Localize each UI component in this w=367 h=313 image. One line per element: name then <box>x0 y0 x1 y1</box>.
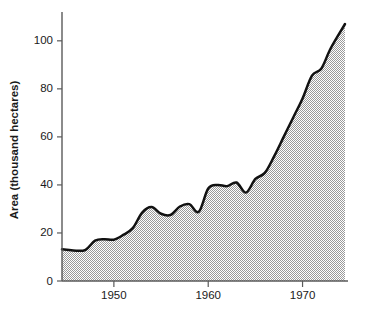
y-tick-label: 40 <box>40 178 53 190</box>
x-tick-label: 1950 <box>101 289 127 301</box>
x-tick-label: 1970 <box>290 289 316 301</box>
y-tick-label: 60 <box>40 130 53 142</box>
y-axis-label: Area (thousand hectares) <box>8 80 20 219</box>
x-tick-label: 1960 <box>195 289 221 301</box>
x-axis: 195019601970 <box>62 281 348 301</box>
area-chart: 020406080100 195019601970 Area (thousand… <box>0 0 367 313</box>
chart-container: 020406080100 195019601970 Area (thousand… <box>0 0 367 313</box>
y-tick-label: 100 <box>34 34 53 46</box>
y-tick-label: 20 <box>40 226 53 238</box>
series-area-fill <box>62 24 345 281</box>
y-tick-label: 0 <box>47 275 53 287</box>
y-tick-label: 80 <box>40 82 53 94</box>
y-axis: 020406080100 <box>34 12 62 287</box>
